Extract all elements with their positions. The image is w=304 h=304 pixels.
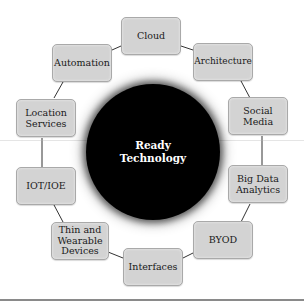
node-big-data-analytics: Big Data Analytics bbox=[228, 165, 288, 203]
node-interfaces: Interfaces bbox=[123, 248, 183, 286]
node-label: Cloud bbox=[137, 30, 165, 42]
node-label: Social Media bbox=[238, 105, 278, 128]
node-label: Big Data Analytics bbox=[232, 173, 284, 196]
node-label: Automation bbox=[54, 57, 110, 69]
node-label: Location Services bbox=[21, 107, 71, 130]
hub-ready-technology: Ready Technology bbox=[86, 84, 220, 220]
node-label: IOT/IOE bbox=[26, 180, 66, 192]
node-thin-wearable-devices: Thin and Wearable Devices bbox=[51, 222, 109, 260]
node-label: Thin and Wearable Devices bbox=[55, 225, 105, 257]
node-architecture: Architecture bbox=[193, 43, 253, 81]
node-label: BYOD bbox=[209, 234, 238, 246]
hub-label-line2: Technology bbox=[120, 152, 186, 165]
node-label: Architecture bbox=[194, 56, 252, 68]
node-byod: BYOD bbox=[193, 221, 253, 259]
node-social-media: Social Media bbox=[228, 97, 288, 135]
node-cloud: Cloud bbox=[121, 17, 181, 55]
node-iot-ioe: IOT/IOE bbox=[16, 167, 76, 205]
ready-technology-diagram: Ready Technology Cloud Architecture Soci… bbox=[0, 0, 304, 304]
node-automation: Automation bbox=[52, 44, 112, 82]
node-label: Interfaces bbox=[129, 261, 178, 273]
hub-label-line1: Ready bbox=[120, 139, 186, 152]
bottom-rule bbox=[0, 299, 304, 301]
node-location-services: Location Services bbox=[16, 99, 76, 137]
